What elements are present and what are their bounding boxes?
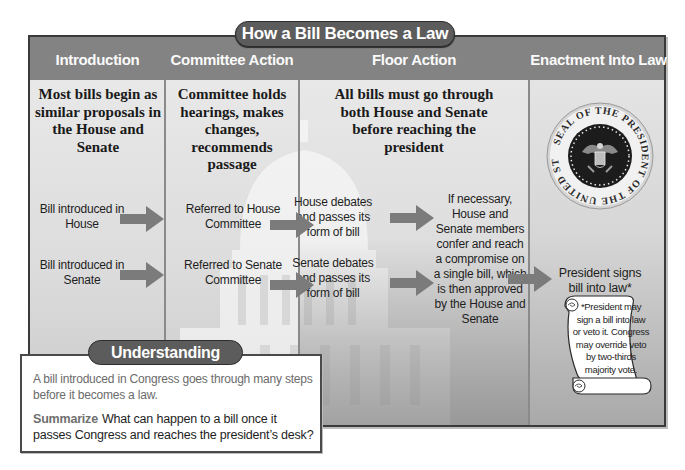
arrow-right-icon — [270, 212, 314, 238]
arrow-right-icon — [508, 266, 552, 292]
lead-introduction: Most bills begin as similar proposals in… — [34, 86, 162, 156]
understanding-charts-intro: A bill introduced in Congress goes throu… — [33, 371, 318, 403]
heading-committee-action: Committee Action — [165, 51, 299, 75]
lead-committee: Committee holds hearings, makes changes,… — [168, 86, 296, 174]
lead-floor: All bills must go through both House and… — [330, 86, 498, 156]
arrow-right-icon — [390, 205, 434, 231]
heading-floor-action: Floor Action — [299, 51, 529, 75]
step-conference-compromise: If necessary, House and Senate members c… — [432, 192, 528, 327]
heading-introduction: Introduction — [30, 51, 165, 75]
summarize-question: SummarizeWhat can happen to a bill once … — [33, 411, 318, 443]
column-divider — [528, 80, 530, 425]
arrow-right-icon — [120, 206, 164, 232]
chart-title: How a Bill Becomes a Law — [235, 21, 455, 47]
arrow-right-icon — [390, 270, 434, 296]
understanding-charts-title: Understanding Charts — [88, 340, 243, 365]
step-bill-introduced-senate: Bill introduced in Senate — [36, 258, 128, 288]
heading-enactment: Enactment Into Law — [529, 51, 668, 75]
arrow-right-icon — [120, 262, 164, 288]
step-bill-introduced-house: Bill introduced in House — [36, 202, 128, 232]
veto-footnote: *President may sign a bill into law or v… — [572, 301, 650, 376]
summarize-keyword: Summarize — [33, 412, 98, 426]
presidential-seal-icon: SEAL OF THE PRESIDENT OF THE UNITED STAT… — [546, 102, 654, 210]
arrow-right-icon — [270, 272, 314, 298]
